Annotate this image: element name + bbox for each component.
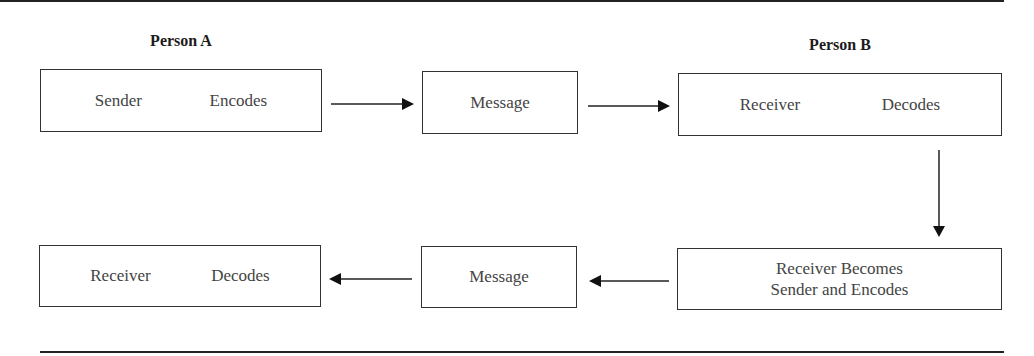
arrows-layer [0, 0, 1034, 356]
arrow-left-icon [589, 275, 669, 287]
arrow-down-icon [933, 150, 945, 237]
arrow-right-icon [588, 100, 670, 112]
arrow-right-icon [331, 98, 414, 110]
arrow-left-icon [329, 273, 412, 285]
